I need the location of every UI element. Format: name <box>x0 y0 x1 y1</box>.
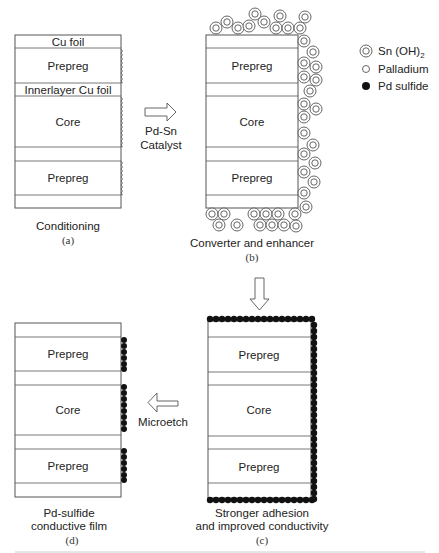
process-diagram: Cu foil Prepreg Innerlayer Cu foil Core … <box>0 0 439 553</box>
arrow-label-line1: Pd-Sn <box>145 125 177 137</box>
arrow-microetch: Microetch <box>138 393 188 428</box>
layer-label-prepreg: Prepreg <box>48 172 89 184</box>
pd-sulfide-dots <box>121 337 127 483</box>
panel-c-stronger-adhesion: Prepreg Core Prepreg Stron <box>196 316 329 547</box>
panel-a-conditioning: Cu foil Prepreg Innerlayer Cu foil Core … <box>15 35 123 247</box>
layer-label-core: Core <box>56 404 81 416</box>
panel-d-caption-line1: Pd-sulfide <box>43 507 94 519</box>
layer-label-prepreg: Prepreg <box>48 60 89 72</box>
layer-label-prepreg: Prepreg <box>239 461 280 473</box>
panel-c-caption-line1: Stronger adhesion <box>215 507 309 519</box>
layer-label-core: Core <box>240 116 265 128</box>
arrow-pd-sn-catalyst: Pd-Sn Catalyst <box>140 103 182 151</box>
panel-b-letter: (b) <box>246 251 259 264</box>
legend-label-sn-oh2: Sn (OH) <box>378 45 420 57</box>
legend-label-palladium: Palladium <box>378 63 429 75</box>
legend-label-subscript: 2 <box>420 51 425 60</box>
panel-d-letter: (d) <box>66 534 79 547</box>
open-circle-icon <box>363 66 370 73</box>
svg-text:Sn (OH)2: Sn (OH)2 <box>378 45 425 60</box>
right-arrow-icon <box>145 103 176 121</box>
layer-label-prepreg: Prepreg <box>232 172 273 184</box>
layer-label-innerlayer-cu-foil: Innerlayer Cu foil <box>25 84 112 96</box>
layer-label-prepreg: Prepreg <box>232 60 273 72</box>
layer-label-cu-foil: Cu foil <box>52 36 85 48</box>
panel-d-caption-line2: conductive film <box>31 520 107 532</box>
legend-label-pd-sulfide: Pd sulfide <box>378 80 429 92</box>
filled-circle-icon <box>362 82 370 90</box>
legend-item-sn-oh2: Sn (OH)2 <box>360 45 425 60</box>
arrow-label: Microetch <box>138 416 188 428</box>
arrow-label-line2: Catalyst <box>140 139 182 151</box>
panel-c-letter: (c) <box>256 534 269 547</box>
left-arrow-icon <box>148 393 178 412</box>
panel-d-pd-sulfide-film: Prepreg Core Prepreg Pd-sulfide conducti… <box>15 323 127 547</box>
panel-b-caption: Converter and enhancer <box>190 237 314 249</box>
panel-a-letter: (a) <box>62 234 75 247</box>
legend-item-pd-sulfide: Pd sulfide <box>362 80 429 92</box>
legend-item-palladium: Palladium <box>363 63 429 75</box>
panel-b-converter-enhancer: Prepreg Core Prepreg <box>190 8 322 264</box>
layer-label-prepreg: Prepreg <box>239 349 280 361</box>
panel-a-caption: Conditioning <box>36 220 100 232</box>
layer-label-core: Core <box>247 404 272 416</box>
layer-label-prepreg: Prepreg <box>48 348 89 360</box>
layer-label-prepreg: Prepreg <box>48 460 89 472</box>
panel-c-caption-line2: and improved conductivity <box>196 520 329 532</box>
layer-label-core: Core <box>56 116 81 128</box>
legend: Sn (OH)2 Palladium Pd sulfide <box>360 45 429 92</box>
down-arrow-icon <box>250 278 269 310</box>
